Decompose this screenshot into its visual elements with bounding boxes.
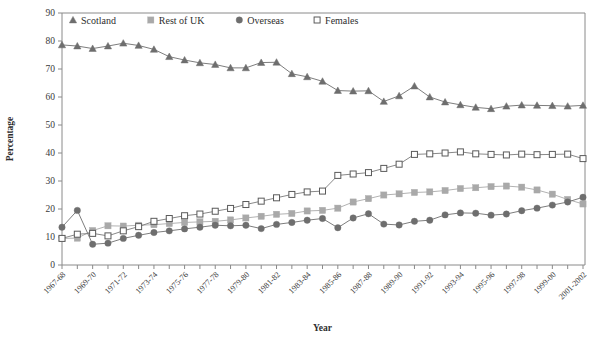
x-tick-label: 1995-96 — [471, 270, 497, 296]
marker-overseas — [181, 226, 187, 232]
marker-overseas — [442, 212, 448, 218]
marker-females — [304, 189, 310, 195]
marker-rest-of-uk — [304, 208, 310, 214]
marker-rest-of-uk — [519, 184, 525, 190]
marker-females — [120, 228, 126, 234]
y-tick-label: 40 — [46, 148, 56, 158]
x-tick-label: 1979-80 — [226, 270, 252, 296]
marker-rest-of-uk — [488, 184, 494, 190]
x-tick-label: 1975-76 — [164, 270, 190, 296]
marker-overseas — [166, 228, 172, 234]
marker-rest-of-uk — [580, 201, 586, 207]
x-tick-label: 1987-88 — [348, 270, 374, 296]
marker-overseas — [473, 210, 479, 216]
marker-overseas — [120, 235, 126, 241]
marker-females — [166, 216, 172, 222]
marker-females — [182, 213, 188, 219]
marker-females — [396, 161, 402, 167]
marker-scotland — [396, 92, 403, 98]
marker-females — [151, 218, 157, 224]
marker-overseas — [549, 202, 555, 208]
marker-overseas — [411, 218, 417, 224]
legend-label: Scotland — [81, 15, 116, 26]
marker-rest-of-uk — [319, 207, 325, 213]
marker-overseas — [151, 229, 157, 235]
marker-overseas — [580, 194, 586, 200]
marker-legend-females — [314, 17, 320, 23]
marker-rest-of-uk — [442, 187, 448, 193]
x-tick-label: 1967-68 — [42, 270, 68, 296]
legend-label: Females — [325, 15, 358, 26]
marker-females — [503, 152, 509, 158]
marker-females — [565, 151, 571, 157]
marker-females — [90, 230, 96, 236]
legend-item-scotland: Scotland — [69, 15, 116, 26]
marker-overseas — [59, 224, 65, 230]
marker-overseas — [197, 224, 203, 230]
marker-females — [320, 188, 326, 194]
x-tick-label: 1977-78 — [195, 270, 221, 296]
marker-females — [59, 235, 65, 241]
marker-rest-of-uk — [457, 185, 463, 191]
marker-rest-of-uk — [289, 210, 295, 216]
chart-figure: 01020304050607080901967-681969-701971-72… — [0, 0, 600, 339]
marker-overseas — [350, 215, 356, 221]
marker-females — [335, 172, 341, 178]
marker-rest-of-uk — [534, 187, 540, 193]
marker-rest-of-uk — [411, 189, 417, 195]
marker-rest-of-uk — [381, 192, 387, 198]
marker-females — [488, 151, 494, 157]
y-tick-label: 90 — [46, 8, 56, 18]
y-tick-label: 20 — [46, 204, 56, 214]
marker-females — [427, 151, 433, 157]
legend-label: Rest of UK — [159, 15, 205, 26]
x-tick-label: 1991-92 — [410, 270, 436, 296]
marker-scotland — [579, 102, 586, 108]
marker-overseas — [273, 221, 279, 227]
marker-scotland — [411, 82, 418, 88]
y-tick-label: 0 — [50, 260, 55, 270]
marker-females — [365, 170, 371, 176]
series-females — [59, 149, 586, 242]
marker-overseas — [105, 240, 111, 246]
x-tick-label: 1985-86 — [318, 270, 344, 296]
marker-rest-of-uk — [258, 213, 264, 219]
marker-rest-of-uk — [105, 223, 111, 229]
marker-females — [442, 150, 448, 156]
marker-scotland — [288, 70, 295, 76]
marker-overseas — [135, 232, 141, 238]
marker-females — [105, 233, 111, 239]
legend-item-overseas: Overseas — [236, 15, 284, 26]
marker-overseas — [319, 215, 325, 221]
marker-overseas — [427, 217, 433, 223]
marker-overseas — [243, 222, 249, 228]
series-line-scotland — [62, 43, 583, 109]
x-tick-label: 1997-98 — [501, 270, 527, 296]
marker-overseas — [457, 210, 463, 216]
series-scotland — [58, 40, 586, 112]
marker-females — [258, 198, 264, 204]
series-overseas — [59, 194, 586, 247]
marker-rest-of-uk — [549, 191, 555, 197]
marker-overseas — [289, 219, 295, 225]
marker-overseas — [381, 221, 387, 227]
y-tick-label: 70 — [46, 64, 56, 74]
marker-scotland — [334, 87, 341, 93]
line-chart: 01020304050607080901967-681969-701971-72… — [0, 0, 600, 339]
marker-overseas — [89, 241, 95, 247]
marker-scotland — [380, 98, 387, 104]
marker-rest-of-uk — [503, 183, 509, 189]
marker-scotland — [58, 41, 65, 47]
marker-females — [473, 151, 479, 157]
marker-overseas — [534, 205, 540, 211]
marker-females — [519, 151, 525, 157]
marker-rest-of-uk — [365, 196, 371, 202]
marker-overseas — [519, 207, 525, 213]
marker-females — [197, 211, 203, 217]
marker-females — [289, 191, 295, 197]
marker-rest-of-uk — [227, 217, 233, 223]
marker-overseas — [258, 225, 264, 231]
marker-overseas — [304, 217, 310, 223]
y-tick-label: 50 — [46, 120, 56, 130]
x-tick-label: 1969-70 — [72, 270, 98, 296]
